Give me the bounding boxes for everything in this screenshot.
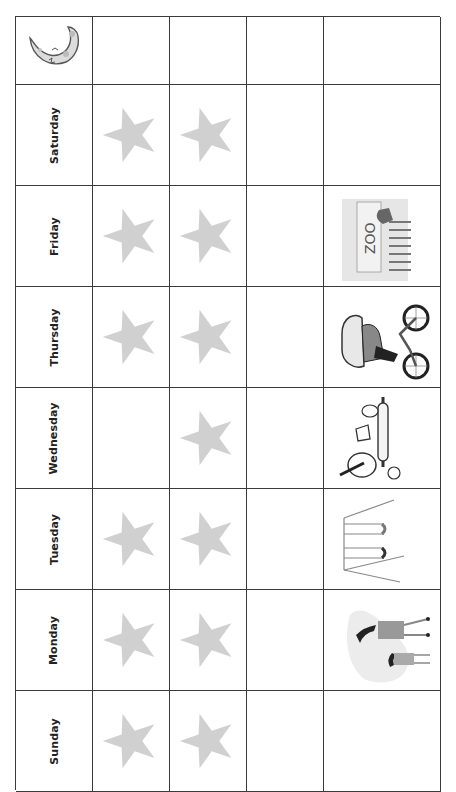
star-cell[interactable] <box>170 388 247 489</box>
svg-text:ZOO: ZOO <box>362 222 378 254</box>
star-cell[interactable] <box>170 590 247 691</box>
star-icon <box>178 608 238 672</box>
day-cell-saturday: Saturday <box>16 85 93 186</box>
activity-cell-friday: ZOO <box>324 186 441 287</box>
day-label: Saturday <box>47 107 60 164</box>
header-cell-2 <box>170 17 247 85</box>
header-cell-1 <box>93 17 170 85</box>
star-cell[interactable] <box>93 186 170 287</box>
empty-cell[interactable] <box>247 186 324 287</box>
day-cell-wednesday: Wednesday <box>16 388 93 489</box>
star-icon <box>178 507 238 571</box>
zoo-icon: ZOO <box>334 191 430 281</box>
star-cell[interactable] <box>170 691 247 792</box>
empty-cell[interactable] <box>247 489 324 590</box>
swing-set-icon <box>334 494 430 584</box>
day-label: Thursday <box>47 308 60 366</box>
star-icon <box>178 305 238 369</box>
star-icon <box>178 406 238 470</box>
star-cell[interactable] <box>170 287 247 388</box>
empty-cell[interactable] <box>247 287 324 388</box>
star-icon <box>101 305 161 369</box>
day-label: Wednesday <box>47 402 60 474</box>
star-icon <box>101 507 161 571</box>
star-cell[interactable] <box>170 186 247 287</box>
header-moon-cell <box>16 17 93 85</box>
empty-cell[interactable] <box>247 590 324 691</box>
activity-cell-tuesday <box>324 489 441 590</box>
day-label: Monday <box>47 615 60 664</box>
star-cell[interactable] <box>170 85 247 186</box>
reward-chart-grid: Saturday Friday ZOO <box>15 16 440 790</box>
empty-cell[interactable] <box>93 388 170 489</box>
star-icon <box>101 709 161 773</box>
day-label: Sunday <box>47 718 60 764</box>
star-cell[interactable] <box>170 489 247 590</box>
star-icon <box>101 103 161 167</box>
empty-cell[interactable] <box>247 691 324 792</box>
activity-cell-monday <box>324 590 441 691</box>
day-label: Tuesday <box>48 514 61 565</box>
day-cell-tuesday: Tuesday <box>16 489 93 590</box>
star-cell[interactable] <box>93 691 170 792</box>
parent-child-walk-icon <box>334 595 430 685</box>
activity-cell-sunday <box>324 691 441 792</box>
activity-cell-thursday <box>324 287 441 388</box>
star-cell[interactable] <box>93 590 170 691</box>
day-cell-friday: Friday <box>16 186 93 287</box>
empty-cell[interactable] <box>247 388 324 489</box>
star-cell[interactable] <box>93 85 170 186</box>
star-icon <box>178 103 238 167</box>
day-cell-monday: Monday <box>16 590 93 691</box>
star-icon <box>178 204 238 268</box>
day-label: Friday <box>48 217 61 256</box>
star-cell[interactable] <box>93 489 170 590</box>
moon-icon <box>22 24 86 78</box>
star-icon <box>101 204 161 268</box>
header-cell-3 <box>247 17 324 85</box>
day-cell-sunday: Sunday <box>16 691 93 792</box>
activity-cell-saturday <box>324 85 441 186</box>
bicycle-rider-icon <box>334 292 430 382</box>
star-icon <box>178 709 238 773</box>
star-icon <box>101 608 161 672</box>
header-cell-4 <box>324 17 441 85</box>
star-cell[interactable] <box>93 287 170 388</box>
activity-cell-wednesday <box>324 388 441 489</box>
empty-cell[interactable] <box>247 85 324 186</box>
baking-icon <box>334 393 430 483</box>
day-cell-thursday: Thursday <box>16 287 93 388</box>
